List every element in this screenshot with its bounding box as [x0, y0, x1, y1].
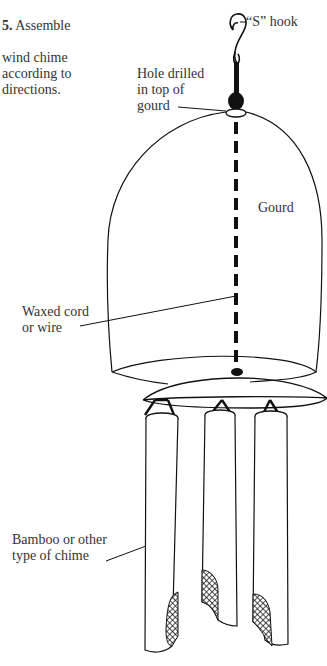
gourd-rim — [112, 356, 316, 384]
wind-chime-diagram — [0, 0, 327, 666]
knot-bead-icon — [228, 92, 244, 110]
chime-tube-center — [202, 400, 237, 626]
gourd-body — [107, 112, 322, 372]
chime-tube-right — [253, 400, 288, 646]
cord-top — [234, 62, 239, 96]
chime-tube-left — [145, 400, 178, 652]
cord-knot-bottom — [231, 368, 243, 376]
drilled-hole-icon — [226, 109, 246, 117]
